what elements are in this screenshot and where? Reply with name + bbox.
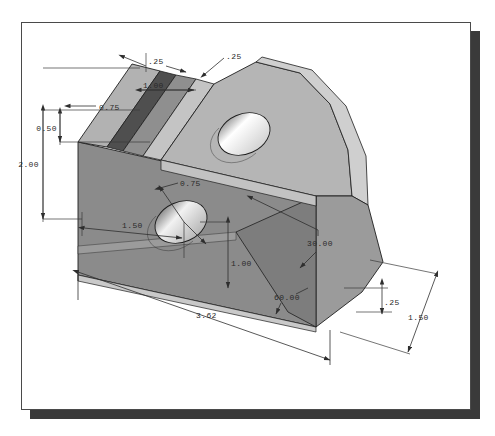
isometric-part-drawing: 2.00 0.50 0.75 .25 .25 1.00 [0, 0, 495, 436]
dim-label-1-50-width: 1.50 [408, 313, 429, 322]
dim-label-1-50-hole-x: 1.50 [122, 221, 143, 230]
drawing-canvas: 2.00 0.50 0.75 .25 .25 1.00 [0, 0, 495, 436]
dim-label-0-75-height: 0.75 [99, 103, 120, 112]
dim-label-25-top-right: .25 [226, 52, 242, 61]
dim-label-3-62: 3.62 [196, 311, 217, 320]
dim-label-0-75-hole: 0.75 [180, 179, 201, 188]
dim-label-0-50: 0.50 [36, 124, 57, 133]
part-solid [78, 57, 383, 332]
dim-label-60-00: 60.00 [274, 293, 300, 302]
right-ramp-face [316, 196, 383, 327]
dim-label-1-00-depth: 1.00 [143, 81, 164, 90]
dim-label-30-00: 30.00 [307, 239, 333, 248]
dim-label-25-right: .25 [384, 298, 400, 307]
dim-label-25-top-left: .25 [148, 57, 164, 66]
dim-label-2-00: 2.00 [18, 160, 39, 169]
dim-label-1-00-hole-y: 1.00 [231, 259, 252, 268]
